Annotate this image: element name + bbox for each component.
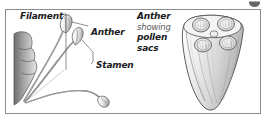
pollen-sac-2: [218, 17, 235, 31]
leader-stamen-tick: [91, 62, 93, 64]
receptacle-lobes: [14, 32, 37, 105]
caption-line-sacs: sacs: [137, 43, 171, 54]
label-stamen: Stamen: [96, 60, 134, 70]
caption-anther-pollen-sacs: Anther showing pollen sacs: [137, 11, 171, 53]
right-illustration: [182, 15, 243, 110]
stamen-3: [26, 91, 109, 108]
caption-line-showing: showing: [137, 22, 171, 33]
label-anther: Anther: [91, 27, 124, 37]
label-filament: Filament: [20, 11, 63, 21]
leader-stamen-upper: [82, 40, 93, 62]
pollen-sac-4: [220, 36, 237, 50]
leader-anther-left: [72, 22, 88, 26]
pollen-sac-1: [193, 18, 210, 32]
caption-line-pollen: pollen: [137, 32, 171, 43]
figure-canvas: Filament Anther Stamen Anther showing po…: [0, 0, 267, 121]
connective-tissue: [210, 31, 218, 37]
caption-line-anther: Anther: [137, 11, 171, 22]
